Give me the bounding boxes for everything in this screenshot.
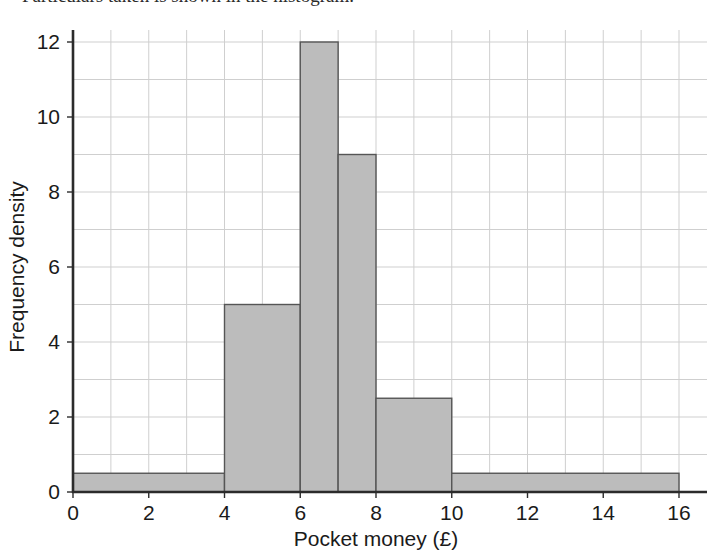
x-axis-title: Pocket money (£)	[294, 527, 459, 550]
histogram-plot: 0246810121416 024681012 Pocket money (£)…	[0, 0, 713, 558]
histogram-bar	[225, 305, 301, 493]
histogram-bar	[338, 155, 376, 493]
y-axis-tick-label: 6	[48, 255, 60, 278]
y-axis-tick-label: 10	[37, 105, 60, 128]
x-axis-tick-label: 6	[294, 501, 306, 524]
histogram-figure: Particulars taken is shown in the histog…	[0, 0, 713, 558]
y-axis-tick-label: 0	[48, 480, 60, 503]
x-axis-tick-label: 14	[592, 501, 616, 524]
x-axis-tick-labels: 0246810121416	[67, 501, 691, 524]
histogram-bar	[452, 473, 679, 492]
y-axis-title: Frequency density	[5, 181, 28, 353]
histogram-bar	[73, 473, 225, 492]
y-axis-tick-label: 8	[48, 180, 60, 203]
x-axis-tick-label: 0	[67, 501, 79, 524]
y-axis-tick-labels: 024681012	[37, 30, 61, 503]
histogram-bar	[300, 42, 338, 492]
x-axis-tick-label: 8	[370, 501, 382, 524]
x-axis-tick-label: 16	[667, 501, 690, 524]
histogram-bar	[376, 398, 452, 492]
y-axis-tick-label: 4	[48, 330, 60, 353]
y-axis-tick-label: 12	[37, 30, 60, 53]
x-axis-tick-label: 2	[143, 501, 155, 524]
y-axis-tick-label: 2	[48, 405, 60, 428]
x-axis-tick-label: 12	[516, 501, 539, 524]
x-axis-tick-label: 4	[219, 501, 231, 524]
x-axis-tick-label: 10	[440, 501, 463, 524]
